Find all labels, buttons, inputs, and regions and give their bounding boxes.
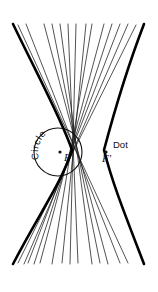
figure-canvas: Circle Dot F F' — [0, 0, 158, 292]
focus-label-f: F — [63, 151, 71, 163]
dot-label: Dot — [113, 139, 128, 150]
focus-point-f — [58, 150, 61, 153]
hyperbola-envelope-figure: Circle Dot F F' — [0, 0, 158, 292]
focus-label-f-prime: F' — [101, 152, 112, 164]
